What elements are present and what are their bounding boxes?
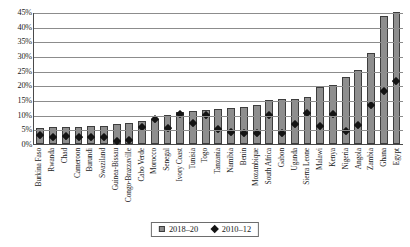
x-axis-tick-label: Morocco: [148, 147, 161, 217]
x-axis-tick-label-text: Uganda: [291, 148, 298, 170]
x-axis-tick-label-text: Malawi: [317, 148, 324, 170]
x-axis-tick-label-text: Cameroon: [74, 148, 81, 178]
bar-group[interactable]: [276, 13, 289, 144]
y-axis-tick-label: 35%: [18, 38, 32, 46]
x-axis-tick-label-text: Sierra Leone: [304, 148, 311, 185]
x-axis-tick-label: Uganda: [288, 147, 301, 217]
bar[interactable]: [240, 107, 248, 144]
bar-series-group: [34, 13, 403, 144]
x-axis-tick-label: Sierra Leone: [301, 147, 314, 217]
y-axis-tick-label: 5%: [21, 126, 32, 134]
x-axis-tick-label-text: Togo: [202, 148, 209, 163]
x-axis-tick-label: Mozambique: [250, 147, 263, 217]
x-axis-tick-label-text: Nigeria: [342, 148, 349, 169]
bar-group[interactable]: [72, 13, 85, 144]
x-axis-tick-label: Burundi: [84, 147, 97, 217]
bar-group[interactable]: [34, 13, 47, 144]
x-axis-tick-label-text: Kenya: [329, 148, 336, 167]
plot-canvas: [33, 13, 403, 145]
x-axis-tick-label: Egypt: [390, 147, 403, 217]
bar-group[interactable]: [339, 13, 352, 144]
gridline: [34, 101, 403, 102]
chart-plot-area: 0%5%10%15%20%25%30%35%40%45% Burkina Fas…: [0, 0, 410, 247]
bar-group[interactable]: [314, 13, 327, 144]
x-axis-tick-label-text: Swaziland: [100, 148, 107, 178]
x-axis-tick-label: Congo-Brazzaville: [122, 147, 135, 217]
bar-group[interactable]: [212, 13, 225, 144]
x-axis-category-labels: Burkina FasoRwandaChadCameroonBurundiSwa…: [33, 147, 403, 217]
bar-group[interactable]: [301, 13, 314, 144]
bar[interactable]: [380, 16, 388, 144]
y-axis-tick-label: 20%: [18, 82, 32, 90]
gridline: [34, 116, 403, 117]
chart-figure: 0%5%10%15%20%25%30%35%40%45% Burkina Fas…: [0, 0, 410, 247]
bar-group[interactable]: [365, 13, 378, 144]
x-axis-tick-label-text: Gabon: [278, 148, 285, 167]
x-axis-tick-label-text: Mozambique: [253, 148, 260, 186]
bar[interactable]: [304, 97, 312, 144]
x-axis-tick-label: Kenya: [327, 147, 340, 217]
bar-group[interactable]: [59, 13, 72, 144]
gridline: [34, 130, 403, 131]
x-axis-tick-label-text: Tanzania: [214, 148, 221, 174]
x-axis-tick-label: Rwanda: [46, 147, 59, 217]
bar-group[interactable]: [225, 13, 238, 144]
x-axis-tick-label-text: Congo-Brazzaville: [125, 148, 132, 202]
x-axis-tick-label-text: Zambia: [368, 148, 375, 170]
bar-group[interactable]: [377, 13, 390, 144]
x-axis-tick-label: Tanzania: [212, 147, 225, 217]
bar-group[interactable]: [148, 13, 161, 144]
x-axis-tick-label-text: Senegal: [163, 148, 170, 171]
legend-item[interactable]: 2018–20: [159, 225, 198, 234]
x-axis-tick-label: Benin: [237, 147, 250, 217]
bar-group[interactable]: [288, 13, 301, 144]
bar-group[interactable]: [85, 13, 98, 144]
bar-group[interactable]: [123, 13, 136, 144]
bar-group[interactable]: [136, 13, 149, 144]
gridline: [34, 72, 403, 73]
x-axis-tick-label-text: Morocco: [151, 148, 158, 174]
bar-group[interactable]: [352, 13, 365, 144]
chart-legend: 2018–202010–12: [151, 222, 259, 237]
bar[interactable]: [354, 70, 362, 144]
x-axis-tick-label-text: Egypt: [393, 148, 400, 165]
x-axis-tick-label-text: Guinea-Bissau: [112, 148, 119, 190]
bar-group[interactable]: [390, 13, 403, 144]
bar-group[interactable]: [110, 13, 123, 144]
bar-group[interactable]: [327, 13, 340, 144]
bar-group[interactable]: [47, 13, 60, 144]
x-axis-tick-label: Namibia: [224, 147, 237, 217]
bar-group[interactable]: [199, 13, 212, 144]
bar-group[interactable]: [263, 13, 276, 144]
x-axis-tick-label-text: Benin: [240, 148, 247, 165]
gridline: [34, 57, 403, 58]
bar-group[interactable]: [161, 13, 174, 144]
legend-square-swatch: [159, 226, 165, 232]
x-axis-tick-label-text: Chad: [61, 148, 68, 163]
x-axis-tick-label-text: Angola: [355, 148, 362, 169]
bar-group[interactable]: [187, 13, 200, 144]
legend-item[interactable]: 2010–12: [212, 225, 251, 234]
bar[interactable]: [227, 108, 235, 144]
y-axis-tick-label: 0%: [21, 141, 32, 149]
x-axis-tick-label-text: Ivory Coast: [176, 148, 183, 182]
y-axis-tick-label: 40%: [18, 24, 32, 32]
x-axis-tick-label-text: Burkina Faso: [36, 148, 43, 186]
bar-group[interactable]: [98, 13, 111, 144]
y-axis-tick-label: 30%: [18, 53, 32, 61]
bar[interactable]: [253, 105, 261, 144]
x-axis-tick-label-text: Cabo Verde: [138, 148, 145, 182]
bar-group[interactable]: [238, 13, 251, 144]
x-axis-tick-label-text: Ghana: [380, 148, 387, 167]
gridline: [34, 13, 403, 14]
gridline: [34, 86, 403, 87]
x-axis-tick-label: Senegal: [161, 147, 174, 217]
bar[interactable]: [265, 100, 273, 144]
x-axis-tick-label: Burkina Faso: [33, 147, 46, 217]
bar-group[interactable]: [174, 13, 187, 144]
bar-group[interactable]: [250, 13, 263, 144]
y-axis: 0%5%10%15%20%25%30%35%40%45%: [2, 8, 32, 148]
x-axis-tick-label-text: Burundi: [87, 148, 94, 172]
legend-label: 2010–12: [222, 225, 251, 234]
y-axis-tick-label: 10%: [18, 112, 32, 120]
